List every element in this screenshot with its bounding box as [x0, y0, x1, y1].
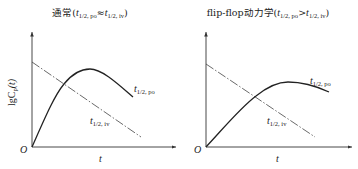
- iv-label: t1/2, iv: [90, 115, 110, 127]
- iv-line: [32, 62, 141, 137]
- iv-line: [206, 64, 315, 137]
- origin-label: O: [194, 144, 201, 155]
- origin-label: O: [20, 144, 27, 155]
- panel-title: 通常(t1/2, po≈t1/2, iv): [52, 7, 128, 19]
- x-axis-label: t: [99, 153, 102, 164]
- po-curve: [32, 69, 133, 147]
- panel-normal: 通常(t1/2, po≈t1/2, iv) lgCp(t) O t t1/2, …: [6, 7, 176, 164]
- x-axis-label: t: [276, 153, 279, 164]
- po-label: t1/2, po: [310, 75, 331, 87]
- panel-title: flip-flop动力学(t1/2, po>t1/2, iv): [207, 7, 329, 19]
- pk-comparison-diagram: 通常(t1/2, po≈t1/2, iv) lgCp(t) O t t1/2, …: [0, 0, 358, 169]
- panel-flip-flop: flip-flop动力学(t1/2, po>t1/2, iv) O t t1/2…: [194, 7, 352, 164]
- y-axis-label: lgCp(t): [6, 78, 18, 106]
- po-label: t1/2, po: [134, 83, 155, 95]
